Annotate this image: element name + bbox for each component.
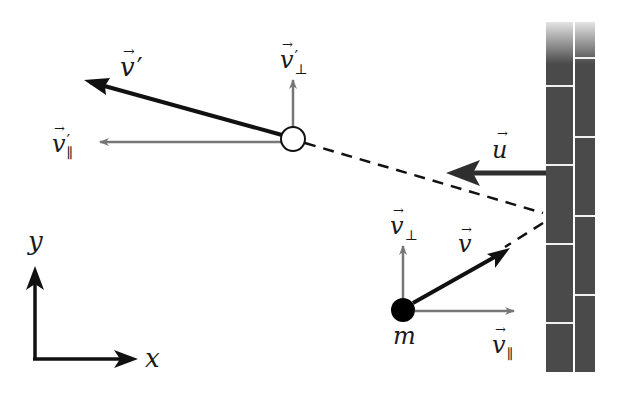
label-v-accent: → <box>461 222 472 237</box>
label-v-prime-accent: → <box>123 43 135 59</box>
label-u-accent: → <box>497 126 508 141</box>
label-v-par-prime-accent: → <box>54 121 65 136</box>
coordinate-axes <box>26 266 138 368</box>
label-v-perp-prime-accent: → <box>282 37 293 52</box>
axis-label-y: y <box>27 226 43 256</box>
label-v-perp-accent: → <box>393 203 404 218</box>
ball-after-collision <box>281 127 305 151</box>
label-v-par-accent: → <box>495 322 506 337</box>
ball-before-collision <box>391 298 415 322</box>
v-prime-vector <box>84 78 282 135</box>
brick-wall <box>546 22 595 372</box>
label-mass-m: m <box>393 322 416 350</box>
axis-label-x: x <box>145 343 160 373</box>
collision-diagram: u → v′ → v′⊥ → v′∥ → m v → v⊥ → v∥ → <box>0 0 621 394</box>
